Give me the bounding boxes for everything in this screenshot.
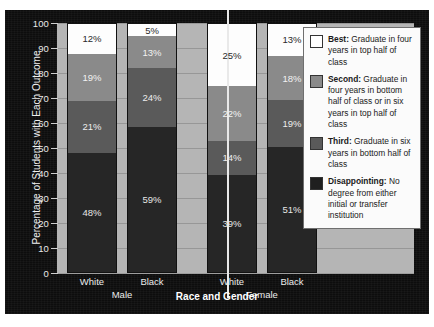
legend-item-second: Second: Graduate in four years in bottom…	[310, 74, 414, 130]
segment-value-label: 12%	[82, 33, 101, 44]
segment-value-label: 51%	[282, 204, 301, 215]
bar-segment-second: 19%	[68, 54, 116, 101]
bar-segment-third: 24%	[128, 68, 176, 127]
legend-term: Third:	[328, 136, 352, 146]
bar-female-white[interactable]: 25%22%14%39%	[207, 23, 257, 273]
legend-term: Best:	[328, 34, 349, 44]
category-label-female-black: Black	[257, 276, 327, 287]
segment-value-label: 13%	[282, 34, 301, 45]
chart-frame: 12%19%21%48%5%13%24%59%25%22%14%39%13%18…	[5, 10, 429, 314]
segment-value-label: 48%	[82, 207, 101, 218]
legend-label: Second: Graduate in four years in bottom…	[328, 74, 414, 130]
legend-swatch-disap-icon	[310, 177, 323, 190]
y-tick-mark	[51, 173, 58, 174]
bar-segment-third: 14%	[208, 141, 256, 176]
legend-swatch-best-icon	[310, 35, 323, 48]
y-tick-mark	[51, 248, 58, 249]
y-tick-mark	[51, 198, 58, 199]
segment-value-label: 59%	[142, 194, 161, 205]
bar-segment-best: 5%	[128, 24, 176, 36]
legend-term: Second:	[328, 74, 361, 84]
bar-segment-best: 12%	[68, 24, 116, 54]
gridline	[57, 273, 414, 274]
legend-label: Best: Graduate in four years in top half…	[328, 34, 414, 68]
segment-value-label: 22%	[222, 108, 241, 119]
legend-label: Third: Graduate in six years in bottom h…	[328, 136, 414, 170]
segment-value-label: 13%	[142, 47, 161, 58]
y-tick-mark	[51, 73, 58, 74]
legend-label: Disappointing: No degree from either ini…	[328, 176, 414, 221]
y-tick-mark	[51, 223, 58, 224]
chart-legend: Best: Graduate in four years in top half…	[303, 27, 421, 229]
y-tick-mark	[51, 48, 58, 49]
category-label-male-black: Black	[117, 276, 187, 287]
legend-swatch-second-icon	[310, 75, 323, 88]
y-axis-title: Percentage of Students with Each Outcome	[31, 23, 42, 273]
bar-segment-disappointing: 39%	[208, 175, 256, 272]
bar-male-white[interactable]: 12%19%21%48%	[67, 23, 117, 273]
y-tick-mark	[51, 23, 58, 24]
y-tick-mark	[51, 148, 58, 149]
segment-value-label: 19%	[82, 72, 101, 83]
x-axis-title: Race and Gender	[5, 291, 429, 302]
bar-segment-best: 25%	[208, 24, 256, 86]
segment-value-label: 5%	[145, 25, 159, 36]
bar-segment-second: 13%	[128, 36, 176, 68]
bar-segment-third: 21%	[68, 101, 116, 153]
segment-value-label: 39%	[222, 218, 241, 229]
bar-male-black[interactable]: 5%13%24%59%	[127, 23, 177, 273]
legend-item-third: Third: Graduate in six years in bottom h…	[310, 136, 414, 170]
segment-value-label: 18%	[282, 73, 301, 84]
segment-value-label: 19%	[282, 118, 301, 129]
segment-value-label: 25%	[222, 50, 241, 61]
y-tick-mark	[51, 98, 58, 99]
legend-term: Disappointing:	[328, 176, 387, 186]
bar-segment-second: 22%	[208, 86, 256, 141]
segment-value-label: 14%	[222, 152, 241, 163]
legend-swatch-third-icon	[310, 137, 323, 150]
legend-item-disap: Disappointing: No degree from either ini…	[310, 176, 414, 221]
legend-item-best: Best: Graduate in four years in top half…	[310, 34, 414, 68]
y-tick-mark	[51, 273, 58, 274]
segment-value-label: 21%	[82, 121, 101, 132]
segment-value-label: 24%	[142, 92, 161, 103]
bar-segment-disappointing: 48%	[68, 153, 116, 272]
y-tick-mark	[51, 123, 58, 124]
bar-segment-disappointing: 59%	[128, 127, 176, 272]
